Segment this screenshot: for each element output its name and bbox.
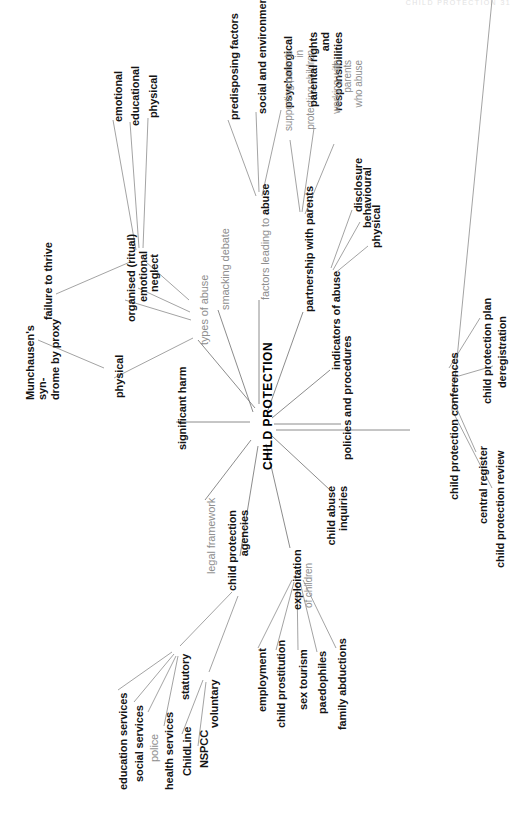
node-failure-to-thrive[interactable]: failure to thrive xyxy=(42,242,54,320)
node-neglect[interactable]: neglect xyxy=(148,254,160,292)
node-physical-abuse[interactable]: physical xyxy=(113,355,125,398)
node-factors-leading-to-abuse[interactable]: factors leading to abuse xyxy=(259,184,271,300)
node-types-of-abuse[interactable]: types of abuse xyxy=(198,275,210,345)
node-munchausen-syndrome-by-proxy[interactable]: Munchausen's syn-drome by proxy xyxy=(24,308,61,400)
node-working-with-parents-who-abuse[interactable]: working with parentswho abuse xyxy=(331,60,365,146)
node-voluntary[interactable]: voluntary xyxy=(208,679,220,728)
node-significant-harm[interactable]: significant harm xyxy=(176,367,188,450)
node-indicator-physical[interactable]: physical xyxy=(370,205,382,248)
node-exploitation[interactable]: exploitation xyxy=(291,549,303,610)
node-smacking-debate[interactable]: smacking debate xyxy=(219,228,231,310)
child-abuse-inquiries-line1: child abuse xyxy=(325,486,337,545)
node-organised-ritual[interactable]: organised (ritual) xyxy=(125,234,137,322)
node-social-and-environmental[interactable]: social and environmental xyxy=(256,0,268,114)
node-paedophiles[interactable]: paedophiles xyxy=(316,651,328,714)
node-neglect-educational[interactable]: educational xyxy=(129,66,141,126)
factors-leading-suffix: abuse xyxy=(259,184,271,215)
node-predisposing-factors[interactable]: predisposing factors xyxy=(228,13,240,120)
node-child-prostitution[interactable]: child prostitution xyxy=(275,640,287,728)
node-exploitation-of-children-sub: of children xyxy=(303,563,314,608)
node-central-register[interactable]: central register xyxy=(477,446,489,524)
center-node-child-protection[interactable]: CHILD PROTECTION xyxy=(262,342,275,470)
node-legal-framework[interactable]: legal framework xyxy=(205,498,217,574)
parental-rights-line1: parental rights xyxy=(307,32,319,107)
node-child-protection-conferences[interactable]: child protection conferences xyxy=(448,352,460,500)
node-sex-tourism[interactable]: sex tourism xyxy=(297,649,309,710)
node-policies-and-procedures[interactable]: policies and procedures xyxy=(341,336,353,460)
node-child-protection-plan[interactable]: child protection plan xyxy=(481,298,493,404)
node-child-abuse-inquiries[interactable]: child abuseinquiries xyxy=(325,486,350,548)
node-child-protection-review[interactable]: child protection review xyxy=(494,450,506,568)
factors-leading-prefix: factors leading to xyxy=(259,215,271,300)
node-partnership-with-parents[interactable]: partnership with parents xyxy=(303,186,315,312)
node-deregistration[interactable]: deregistration xyxy=(496,316,508,388)
munchausen-line1: Munchausen's syn- xyxy=(24,325,48,400)
node-social-services[interactable]: social services xyxy=(133,705,145,782)
munchausen-line2: drome by proxy xyxy=(49,319,61,400)
child-abuse-inquiries-line2: inquiries xyxy=(337,486,349,531)
node-statutory[interactable]: statutory xyxy=(179,654,191,700)
supporting-parents-line1: supporting parents in xyxy=(283,50,305,131)
node-neglect-emotional[interactable]: emotional xyxy=(112,71,124,122)
node-nspcc[interactable]: NSPCC xyxy=(198,730,210,768)
node-health-services[interactable]: health services xyxy=(163,712,175,790)
working-with-parents-line2: who abuse xyxy=(353,60,364,107)
working-with-parents-line1: working with parents xyxy=(331,60,353,114)
node-child-protection-agencies[interactable]: child protectionagencies xyxy=(226,510,251,598)
page-header-faint: CHILD PROTECTION 31 xyxy=(406,0,511,6)
node-employment[interactable]: employment xyxy=(256,648,268,712)
node-education-services[interactable]: education services xyxy=(117,693,129,790)
mindmap-canvas: CHILD PROTECTION 31 xyxy=(0,0,517,816)
node-childline[interactable]: ChildLine xyxy=(181,727,193,776)
node-neglect-physical[interactable]: physical xyxy=(147,75,159,118)
cp-agencies-line2: agencies xyxy=(238,510,250,556)
node-family-abductions[interactable]: family abductions xyxy=(336,638,348,730)
cp-agencies-line1: child protection xyxy=(226,510,238,591)
node-police[interactable]: police xyxy=(148,734,160,762)
